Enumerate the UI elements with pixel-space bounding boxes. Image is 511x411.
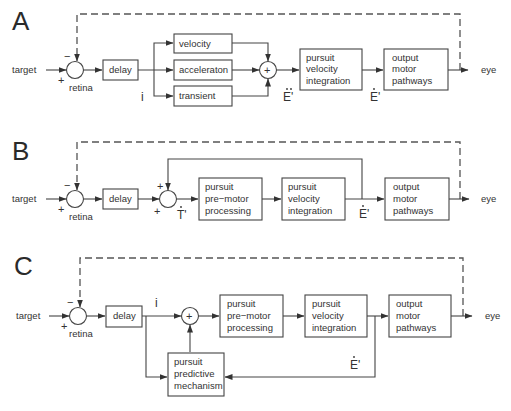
panel-letter-b: B	[12, 136, 29, 166]
svg-text:velocity: velocity	[179, 38, 211, 49]
svg-text:motor: motor	[393, 193, 417, 204]
svg-text:integration: integration	[312, 322, 356, 333]
svg-text:+: +	[61, 320, 67, 332]
signal-i-c: i	[155, 296, 158, 310]
svg-text:pursuit: pursuit	[288, 181, 317, 192]
plus-sign: +	[58, 74, 64, 86]
panel-letter-c: C	[14, 251, 33, 281]
svg-text:integration: integration	[306, 75, 350, 86]
svg-text:output: output	[393, 181, 420, 192]
svg-text:motor: motor	[392, 63, 416, 74]
svg-text:output: output	[392, 52, 419, 63]
minus-sign: −	[64, 50, 70, 62]
svg-text:processing: processing	[205, 205, 251, 216]
svg-text:pursuit: pursuit	[306, 52, 335, 63]
svg-text:acceleraton: acceleraton	[179, 64, 228, 75]
svg-text:velocity: velocity	[288, 193, 320, 204]
svg-text:pathways: pathways	[392, 75, 432, 86]
target-label: target	[12, 64, 37, 75]
svg-text:delay: delay	[113, 310, 136, 321]
svg-text:output: output	[396, 298, 423, 309]
panel-a: A target − + retina delay i velocity acc…	[12, 6, 496, 106]
svg-text:pre−motor: pre−motor	[227, 310, 271, 321]
retina-comparator	[67, 191, 84, 208]
svg-text:transient: transient	[179, 90, 216, 101]
svg-text:velocity: velocity	[306, 63, 338, 74]
svg-text:−: −	[67, 296, 73, 308]
retina-label: retina	[69, 82, 93, 93]
svg-text:pursuit: pursuit	[312, 298, 341, 309]
signal-e-double-dot: E'	[283, 90, 293, 104]
signal-t-dot: T'	[177, 208, 187, 222]
target-label: target	[16, 310, 41, 321]
panel-c: C target − + retina delay i + pursuit pr…	[14, 251, 500, 396]
svg-text:velocity: velocity	[312, 310, 344, 321]
svg-text:+: +	[264, 64, 270, 76]
svg-text:delay: delay	[109, 193, 132, 204]
svg-text:+: +	[157, 180, 163, 192]
panel-b: B target − + retina delay + + T' pursuit…	[12, 136, 496, 222]
svg-text:+: +	[154, 205, 160, 217]
svg-text:pursuit: pursuit	[227, 298, 256, 309]
svg-text:+: +	[58, 203, 64, 215]
eye-label: eye	[485, 310, 500, 321]
svg-text:motor: motor	[396, 310, 420, 321]
svg-text:predictive: predictive	[174, 368, 215, 379]
svg-text:integration: integration	[288, 205, 332, 216]
svg-text:−: −	[64, 179, 70, 191]
svg-text:pursuit: pursuit	[205, 181, 234, 192]
svg-text:pathways: pathways	[396, 322, 436, 333]
retina-label: retina	[69, 211, 93, 222]
diagram-canvas: A target − + retina delay i velocity acc…	[0, 0, 511, 411]
svg-text:pre−motor: pre−motor	[205, 193, 249, 204]
svg-text:mechanism: mechanism	[174, 380, 223, 391]
summing-junction-b	[160, 191, 177, 208]
svg-text:+: +	[186, 310, 192, 322]
signal-e-dot-c: E'	[350, 358, 360, 372]
retina-comparator	[70, 308, 87, 325]
signal-e-dot-a: E'	[370, 90, 380, 104]
eye-label: eye	[481, 64, 496, 75]
eye-label: eye	[481, 193, 496, 204]
retina-label: retina	[69, 328, 93, 339]
signal-e-dot-b: E'	[359, 207, 369, 221]
target-label: target	[12, 193, 37, 204]
svg-text:processing: processing	[227, 322, 273, 333]
panel-letter-a: A	[12, 6, 30, 36]
svg-text:delay: delay	[109, 64, 132, 75]
signal-i-a: i	[141, 90, 144, 104]
retina-comparator	[67, 62, 84, 79]
svg-text:pathways: pathways	[393, 205, 433, 216]
svg-text:pursuit: pursuit	[174, 356, 203, 367]
